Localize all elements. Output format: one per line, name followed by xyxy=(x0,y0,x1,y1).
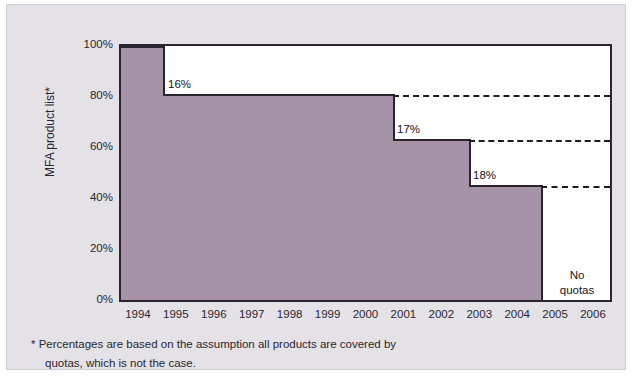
dashed-level-84 xyxy=(393,95,610,97)
step-outline-top-2 xyxy=(163,94,395,96)
step-outline-top-1 xyxy=(121,46,165,48)
step-outline-drop-4 xyxy=(541,185,543,300)
dashed-level-66 xyxy=(469,140,610,142)
no-quotas-line-1: No xyxy=(546,268,608,283)
area-step-2005 xyxy=(469,185,541,300)
y-axis-title: MFA product list* xyxy=(43,77,57,187)
step-outline-top-3 xyxy=(393,139,471,141)
area-step-1994-1996 xyxy=(121,46,165,300)
step-outline-drop-2 xyxy=(393,94,395,141)
footnote-line-1: * Percentages are based on the assumptio… xyxy=(31,335,591,354)
y-tick-60: 60% xyxy=(69,141,113,153)
x-tick-1994: 1994 xyxy=(119,305,157,325)
no-quotas-label: No quotas xyxy=(546,268,608,298)
chart-screenshot: MFA product list* 100% 80% 60% 40% 20% 0… xyxy=(0,0,634,389)
x-tick-1997: 1997 xyxy=(233,305,271,325)
x-tick-2003: 2003 xyxy=(460,305,498,325)
step-outline-drop-1 xyxy=(163,46,165,96)
annotation-17-percent: 17% xyxy=(397,123,420,135)
no-quotas-line-2: quotas xyxy=(546,283,608,298)
x-tick-2004: 2004 xyxy=(498,305,536,325)
x-tick-2001: 2001 xyxy=(384,305,422,325)
annotation-16-percent: 16% xyxy=(168,78,191,90)
chart-panel: MFA product list* 100% 80% 60% 40% 20% 0… xyxy=(6,4,626,370)
x-tick-1998: 1998 xyxy=(271,305,309,325)
x-tick-1995: 1995 xyxy=(157,305,195,325)
x-tick-2006: 2006 xyxy=(574,305,612,325)
plot-area: 16% 17% 18% No quotas xyxy=(119,44,612,302)
area-step-1997-2001 xyxy=(165,94,393,300)
footnote-line-2: quotas, which is not the case. xyxy=(31,354,591,373)
y-tick-0: 0% xyxy=(69,294,113,306)
x-tick-2002: 2002 xyxy=(422,305,460,325)
y-tick-40: 40% xyxy=(69,192,113,204)
y-tick-20: 20% xyxy=(69,243,113,255)
x-tick-1996: 1996 xyxy=(195,305,233,325)
x-tick-2005: 2005 xyxy=(536,305,574,325)
x-axis-tick-labels: 1994 1995 1996 1997 1998 1999 2000 2001 … xyxy=(119,305,612,325)
x-tick-2000: 2000 xyxy=(347,305,385,325)
y-axis-tick-labels: 100% 80% 60% 40% 20% 0% xyxy=(63,44,113,298)
x-tick-1999: 1999 xyxy=(309,305,347,325)
y-tick-80: 80% xyxy=(69,90,113,102)
y-tick-100: 100% xyxy=(69,39,113,51)
footnote: * Percentages are based on the assumptio… xyxy=(31,335,591,373)
step-outline-top-4 xyxy=(469,185,543,187)
annotation-18-percent: 18% xyxy=(473,169,496,181)
dashed-level-47 xyxy=(541,186,610,188)
step-outline-drop-3 xyxy=(469,139,471,187)
area-step-2002-2004 xyxy=(393,139,469,300)
